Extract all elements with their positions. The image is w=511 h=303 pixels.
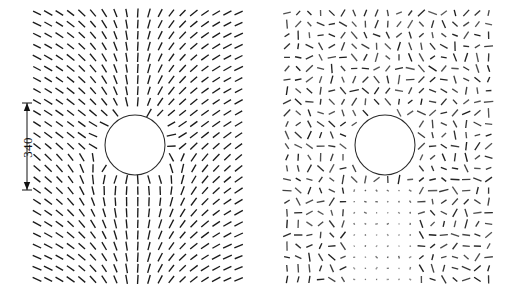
field-segment — [419, 88, 424, 93]
field-segment — [168, 110, 175, 116]
field-segment — [78, 132, 86, 138]
field-segment — [234, 244, 243, 248]
field-segment — [67, 65, 75, 71]
field-segment — [294, 144, 302, 148]
field-segment — [308, 109, 310, 116]
field-segment — [33, 255, 42, 259]
field-segment — [463, 78, 469, 81]
field-segment — [317, 22, 325, 25]
field-segment — [103, 175, 105, 184]
field-segment — [179, 110, 186, 115]
field-segment — [331, 64, 332, 73]
field-segment — [103, 209, 106, 217]
field-segment — [485, 143, 492, 149]
field-segment — [45, 89, 52, 93]
field-segment — [158, 242, 162, 250]
field-segment — [485, 23, 492, 25]
field-segment — [418, 77, 424, 83]
field-segment — [148, 75, 150, 84]
field-segment — [67, 99, 75, 105]
field-segment — [286, 86, 287, 95]
field-segment — [212, 110, 220, 115]
field-segment — [296, 11, 300, 15]
field-segment — [67, 54, 75, 60]
field-segment — [420, 154, 423, 160]
field-segment — [376, 190, 378, 192]
field-segment — [33, 233, 41, 237]
field-segment — [79, 243, 85, 249]
field-segment — [148, 253, 151, 262]
field-segment — [308, 131, 312, 139]
field-segment — [474, 34, 480, 36]
field-segment — [376, 245, 377, 246]
field-segment — [33, 33, 41, 37]
field-segment — [181, 186, 184, 195]
field-segment — [477, 187, 479, 194]
field-segment — [202, 66, 209, 71]
field-segment — [212, 121, 220, 127]
field-segment — [385, 98, 391, 105]
field-segment — [454, 221, 456, 227]
field-segment — [320, 265, 322, 271]
field-segment — [33, 277, 42, 281]
field-segment — [223, 255, 232, 259]
field-segment — [114, 42, 117, 51]
field-segment — [180, 220, 185, 227]
field-segment — [67, 255, 74, 260]
field-segment — [298, 43, 299, 49]
field-segment — [283, 179, 291, 181]
field-segment — [33, 111, 40, 116]
field-segment — [212, 88, 220, 93]
field-segment — [354, 189, 355, 191]
field-segment — [431, 264, 434, 273]
field-segment — [201, 55, 208, 60]
field-segment — [126, 31, 128, 40]
field-segment — [169, 220, 173, 229]
field-segment — [432, 199, 433, 205]
field-segment — [190, 143, 197, 150]
field-segment — [56, 132, 64, 138]
field-segment — [33, 188, 40, 193]
field-segment — [79, 266, 85, 272]
field-segment — [235, 44, 243, 48]
field-segment — [319, 177, 323, 182]
field-segment — [179, 21, 186, 28]
field-segment — [395, 90, 403, 91]
field-segment — [102, 276, 107, 283]
field-segment — [91, 232, 96, 239]
field-segment — [386, 88, 390, 94]
field-segment — [235, 111, 242, 115]
field-segment — [33, 266, 42, 270]
field-segment — [353, 267, 355, 269]
field-segment — [235, 122, 242, 127]
field-segment — [488, 198, 489, 206]
field-segment — [190, 77, 197, 83]
field-segment — [56, 255, 64, 259]
field-segment — [320, 132, 322, 138]
field-segment — [409, 256, 411, 257]
field-segment — [399, 246, 400, 247]
field-segment — [190, 132, 198, 138]
field-segment — [354, 246, 355, 247]
field-segment — [429, 101, 436, 102]
field-segment — [235, 165, 242, 171]
field-segment — [191, 209, 197, 216]
field-segment — [213, 233, 220, 237]
field-segment — [44, 255, 52, 259]
field-segment — [90, 76, 95, 82]
field-segment — [398, 279, 399, 280]
field-segment — [33, 210, 41, 215]
field-segment — [286, 276, 287, 283]
field-segment — [169, 20, 174, 27]
field-segment — [113, 98, 117, 105]
field-segment — [33, 78, 41, 82]
field-segment — [201, 110, 208, 115]
field-segment — [169, 231, 174, 238]
field-segment — [308, 22, 312, 26]
field-segment — [419, 121, 423, 128]
field-segment — [201, 10, 208, 15]
field-segment — [126, 264, 128, 273]
field-segment — [365, 223, 367, 224]
field-segment — [462, 190, 470, 191]
field-segment — [387, 76, 389, 84]
